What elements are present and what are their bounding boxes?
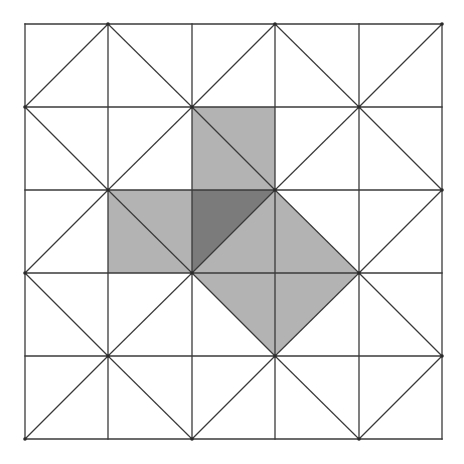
diagonal-line xyxy=(108,356,192,439)
vertex-dot xyxy=(23,437,27,441)
vertex-dot xyxy=(106,188,110,192)
vertex-dot xyxy=(357,271,361,275)
vertex-dot xyxy=(190,271,194,275)
diagonal-line xyxy=(25,107,108,190)
diagonal-line xyxy=(359,107,442,190)
diagonal-line xyxy=(25,273,108,356)
vertex-dot xyxy=(440,354,444,358)
vertex-dot xyxy=(357,437,361,441)
diagonal-line xyxy=(108,24,192,107)
vertex-dot xyxy=(190,105,194,109)
triangulated-grid-diagram xyxy=(0,0,464,464)
diagonal-line xyxy=(192,24,275,107)
diagonal-line xyxy=(192,356,275,439)
vertex-dot xyxy=(273,188,277,192)
vertex-dot xyxy=(440,188,444,192)
diagonal-line xyxy=(25,190,108,273)
vertex-dot xyxy=(23,271,27,275)
vertex-dot xyxy=(23,105,27,109)
diagonal-line xyxy=(275,107,359,190)
diagonal-lines xyxy=(25,24,442,439)
diagonal-line xyxy=(275,24,359,107)
diagonal-line xyxy=(359,24,442,107)
diagonal-line xyxy=(108,107,192,190)
vertex-dot xyxy=(357,105,361,109)
diagram-canvas xyxy=(0,0,464,464)
diagonal-line xyxy=(25,356,108,439)
vertex-dot xyxy=(273,354,277,358)
vertex-dot xyxy=(440,22,444,26)
diagonal-line xyxy=(359,356,442,439)
diagonal-line xyxy=(108,273,192,356)
vertex-dot xyxy=(273,22,277,26)
diagonal-line xyxy=(359,190,442,273)
vertex-dot xyxy=(106,22,110,26)
vertex-dot xyxy=(106,354,110,358)
diagonal-line xyxy=(275,356,359,439)
diagonal-line xyxy=(25,24,108,107)
vertex-dot xyxy=(190,437,194,441)
diagonal-line xyxy=(359,273,442,356)
